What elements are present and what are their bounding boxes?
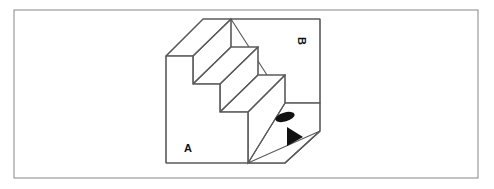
- isometric-staircase-figure: A B: [0, 0, 494, 189]
- face-label-a: A: [184, 142, 192, 154]
- face-label-b: B: [296, 37, 308, 45]
- figure-canvas: A B: [0, 0, 494, 189]
